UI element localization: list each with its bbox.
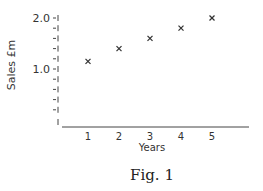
x-axis: 12345 (62, 127, 249, 142)
data-points (86, 16, 215, 64)
x-tick-label: 5 (209, 131, 215, 142)
scatter-chart: 2.01.0 12345 Sales £m Years Fig. 1 (0, 0, 263, 191)
data-point (148, 36, 153, 41)
y-axis-label: Sales £m (5, 40, 18, 91)
y-tick-label: 1.0 (33, 63, 51, 76)
figure-caption: Fig. 1 (130, 166, 174, 184)
data-point (117, 46, 122, 51)
data-point (86, 59, 91, 64)
data-point (179, 26, 184, 31)
x-axis-label: Years (138, 142, 165, 153)
y-axis: 2.01.0 (33, 12, 59, 125)
x-tick-label: 2 (116, 131, 122, 142)
data-point (210, 16, 215, 21)
x-tick-label: 3 (147, 131, 153, 142)
x-tick-label: 4 (178, 131, 184, 142)
y-tick-label: 2.0 (33, 12, 51, 25)
x-tick-label: 1 (85, 131, 91, 142)
